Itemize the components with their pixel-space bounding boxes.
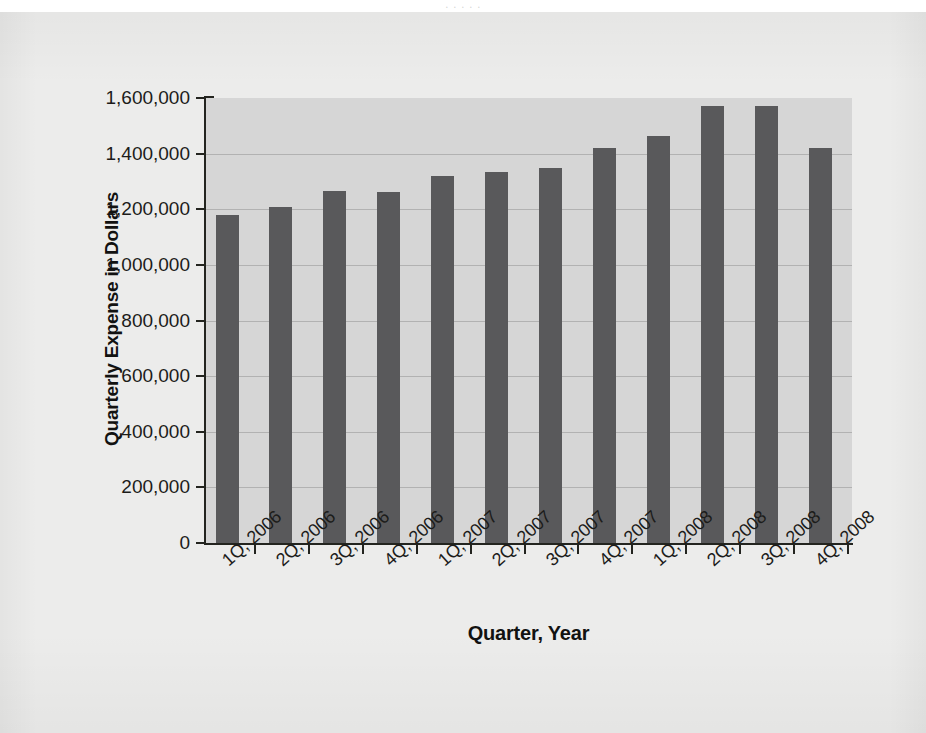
- bar: [701, 106, 724, 543]
- bar: [809, 148, 832, 543]
- bar: [216, 215, 239, 543]
- y-axis-tick: [196, 431, 205, 433]
- y-axis-tick-label: 800,000: [70, 310, 190, 332]
- bar: [539, 168, 562, 544]
- y-axis-tick: [196, 542, 205, 544]
- x-axis-title: Quarter, Year: [205, 622, 852, 645]
- bar: [647, 136, 670, 543]
- y-axis-tick-labels: 0200,000400,000600,000800,0001,000,0001,…: [62, 0, 190, 733]
- y-axis-tick: [196, 486, 205, 488]
- y-axis-tick: [196, 208, 205, 210]
- figure-canvas: . . . . . 0200,000400,000600,000800,0001…: [0, 0, 926, 733]
- y-axis-top-cap: [204, 96, 214, 98]
- y-axis-tick-label: 200,000: [70, 476, 190, 498]
- bar: [593, 148, 616, 544]
- y-axis-tick: [196, 97, 205, 99]
- bar: [323, 191, 346, 543]
- y-axis-tick-label: 400,000: [70, 421, 190, 443]
- bar: [377, 192, 400, 543]
- y-axis-tick-label: 1,400,000: [70, 143, 190, 165]
- y-axis-tick-label: 1,000,000: [70, 254, 190, 276]
- y-axis-tick: [196, 264, 205, 266]
- y-axis-tick: [196, 153, 205, 155]
- bar: [431, 176, 454, 543]
- y-axis-tick: [196, 375, 205, 377]
- bar: [485, 172, 508, 543]
- bar: [755, 106, 778, 543]
- plot-area: [205, 98, 852, 543]
- y-axis-tick-label: 1,200,000: [70, 198, 190, 220]
- y-axis-title: Quarterly Expense in Dollars: [101, 169, 123, 469]
- y-axis-tick: [196, 320, 205, 322]
- bar: [269, 207, 292, 544]
- y-axis-tick-label: 600,000: [70, 365, 190, 387]
- y-axis-tick-label: 1,600,000: [70, 87, 190, 109]
- y-axis-tick-label: 0: [70, 532, 190, 554]
